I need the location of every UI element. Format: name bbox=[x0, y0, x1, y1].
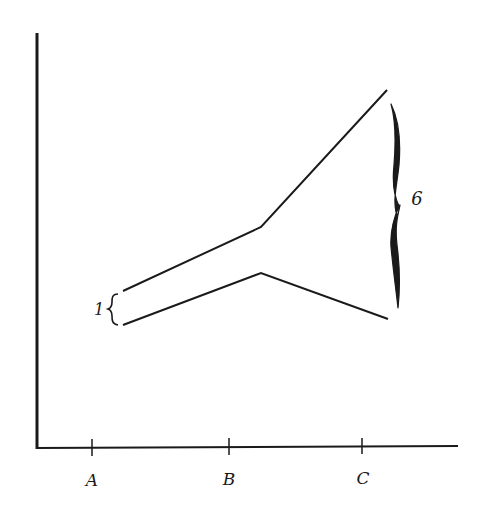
left-brace-icon bbox=[108, 294, 118, 325]
upper-line bbox=[123, 90, 387, 291]
right-brace-icon bbox=[391, 104, 400, 308]
diverging-lines-diagram: A B C 1 6 bbox=[0, 0, 481, 512]
right-brace-label: 6 bbox=[411, 188, 422, 209]
x-tick-label-a: A bbox=[84, 470, 98, 490]
left-brace-label: 1 bbox=[94, 300, 104, 319]
lower-line bbox=[123, 273, 388, 325]
x-axis bbox=[36, 446, 458, 448]
x-tick-label-b: B bbox=[222, 469, 236, 489]
x-tick-label-c: C bbox=[356, 468, 369, 488]
